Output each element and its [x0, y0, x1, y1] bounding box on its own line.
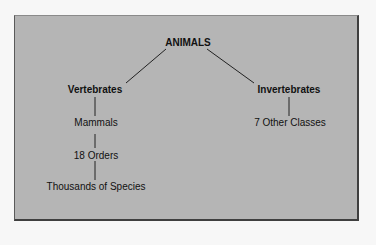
connector-animals-invertebrates — [207, 49, 254, 83]
node-invertebrates: Invertebrates — [258, 84, 321, 96]
node-species: Thousands of Species — [47, 181, 146, 193]
node-orders: 18 Orders — [74, 150, 118, 162]
connector-animals-vertebrates — [126, 49, 166, 83]
node-mammals: Mammals — [74, 117, 117, 129]
node-other-classes: 7 Other Classes — [254, 117, 326, 129]
node-vertebrates: Vertebrates — [68, 84, 122, 96]
node-animals: ANIMALS — [165, 37, 211, 49]
